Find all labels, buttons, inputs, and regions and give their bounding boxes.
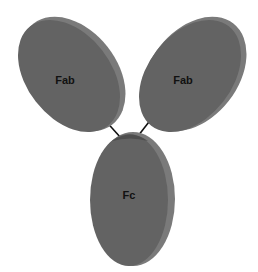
fab-right-domain: Fab xyxy=(118,0,258,152)
fab-left-label: Fab xyxy=(55,74,75,86)
fc-domain: Fc xyxy=(90,132,175,266)
fab-right-label: Fab xyxy=(173,74,193,86)
fab-left-domain: Fab xyxy=(0,0,147,152)
antibody-diagram: Fab Fab Fc xyxy=(0,0,258,272)
fc-label: Fc xyxy=(123,189,136,201)
